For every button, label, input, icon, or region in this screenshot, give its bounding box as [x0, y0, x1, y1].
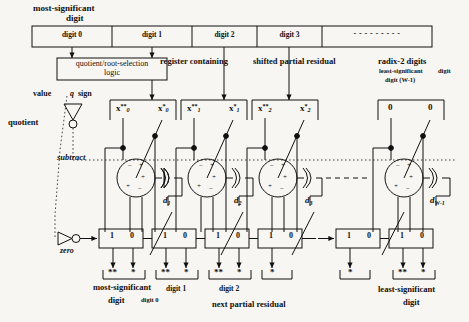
register-cell-ellipsis: - - - - - - - - -	[322, 30, 432, 38]
mux-output-arrows	[113, 248, 423, 268]
figure-canvas: most-significant digit digit 0 digit 1 d…	[0, 0, 469, 322]
zero-label: zero	[60, 247, 74, 255]
adder-2-d-label: d3	[305, 196, 313, 206]
radix-note: radix-2 digits	[378, 57, 426, 66]
mux-5-zero[interactable]: 0	[420, 232, 424, 240]
mux-0-zero[interactable]: 0	[130, 232, 134, 240]
output-caption-digit1: digit 1	[166, 285, 186, 293]
adder-2-sign-top-1: −	[270, 163, 274, 170]
output-4-mark-2: *	[421, 268, 426, 277]
adder-2-sign-top-2: +	[281, 162, 285, 169]
adder-0-d-label: d1	[163, 196, 171, 206]
subtract-label: subtract	[57, 153, 85, 162]
output-4-mark-1: **	[398, 268, 407, 277]
adder-3-sign-top-1: −	[396, 163, 400, 170]
adder-1-sign-top-2: +	[210, 162, 214, 169]
mux-1-one[interactable]: 1	[163, 232, 167, 240]
register-note-2: shifted partial residual	[253, 57, 336, 66]
quotient-dotted-path	[55, 96, 455, 238]
adder-1-sign-top-3: +	[212, 174, 216, 181]
register-cell-0: digit 0	[32, 31, 112, 39]
msd-heading-line2: digit	[66, 14, 84, 23]
mux-4-one[interactable]: 1	[347, 232, 351, 240]
adder-3-sign-top-2: +	[407, 162, 411, 169]
adder-3-sign-bot-1: +	[394, 183, 398, 190]
output-brackets	[103, 270, 435, 279]
output-caption-lsd-2: digit	[403, 298, 420, 307]
output-4-mark-0: *	[348, 268, 353, 277]
inverter-sign	[64, 104, 82, 128]
output-2-mark-1: **	[214, 268, 223, 277]
stage-1	[176, 118, 253, 255]
operand-1-left: x**1	[187, 103, 201, 114]
mux-row	[99, 229, 433, 248]
adder-0-sign-top-3: +	[141, 174, 145, 181]
digit-note: digit	[438, 68, 451, 75]
quotient-label: quotient	[8, 118, 38, 127]
adder-1-sign-top-1: −	[199, 163, 203, 170]
mux-4-zero[interactable]: 0	[367, 232, 371, 240]
next-residual-caption: next partial residual	[212, 300, 286, 309]
operand-3-right: 0	[428, 103, 433, 112]
operand-0-right: x*0	[158, 103, 169, 114]
adder-1-sign-bot-1: +	[197, 183, 201, 190]
lsd-note-2: digit (W-1)	[385, 77, 415, 84]
mux-0-one[interactable]: 1	[110, 232, 114, 240]
mux-3-one[interactable]: 1	[269, 232, 273, 240]
output-caption-digit0: digit 0	[141, 297, 159, 304]
msd-heading-line1: most-significant	[33, 4, 95, 13]
lsd-note-1: least-significant	[379, 68, 423, 75]
mux-5-one[interactable]: 1	[400, 232, 404, 240]
adder-0-sign-bot-2: −	[138, 186, 142, 193]
output-1-mark-2: *	[184, 268, 189, 277]
operand-3-left: 0	[388, 103, 393, 112]
register-cell-2: digit 2	[192, 31, 257, 39]
output-3-mark-1: *	[270, 268, 275, 277]
register-note-1: register containing	[160, 57, 228, 66]
mux-1-zero[interactable]: 0	[183, 232, 187, 240]
sign-label: sign	[78, 90, 92, 98]
adder-3-d-label: dW-1	[430, 196, 445, 206]
output-caption-msd-1: most-significant	[93, 283, 151, 292]
selection-logic-label-2: logic	[57, 69, 167, 77]
zero-inverter	[57, 232, 97, 245]
adder-0-sign-bot-1: +	[126, 183, 130, 190]
operand-2-left: x**2	[258, 103, 272, 114]
operand-2-right: x*2	[300, 103, 311, 114]
output-caption-msd-2: digit	[108, 296, 125, 305]
output-2-mark-2: *	[237, 268, 242, 277]
mux-2-one[interactable]: 1	[216, 232, 220, 240]
adder-0-sign-top-1: −	[128, 163, 132, 170]
value-label: value	[33, 90, 51, 98]
adder-0-sign-top-2: +	[139, 162, 143, 169]
adder-3-sign-top-3: +	[409, 174, 413, 181]
adder-2-sign-bot-2: −	[280, 186, 284, 193]
mux-3-zero[interactable]: 0	[289, 232, 293, 240]
output-0-mark-1: **	[108, 268, 117, 277]
mux-2-zero[interactable]: 0	[236, 232, 240, 240]
adder-1-d-label: d2	[234, 196, 242, 206]
adder-2-sign-top-3: +	[283, 174, 287, 181]
output-caption-lsd-1: least-significant	[378, 285, 435, 294]
output-1-mark-1: **	[161, 268, 170, 277]
output-0-mark-2: *	[131, 268, 136, 277]
stage-last	[373, 118, 450, 255]
adder-1-sign-bot-2: −	[209, 186, 213, 193]
operand-1-right: x*1	[229, 103, 240, 114]
operand-0-left: x**0	[116, 103, 130, 114]
register-cell-1: digit 1	[112, 31, 192, 39]
adder-3-sign-bot-2: −	[406, 186, 410, 193]
register-cell-3: digit 3	[257, 31, 322, 39]
adder-2-sign-bot-1: +	[268, 183, 272, 190]
output-caption-digit2: digit 2	[219, 285, 239, 293]
q-label: q	[70, 90, 74, 98]
